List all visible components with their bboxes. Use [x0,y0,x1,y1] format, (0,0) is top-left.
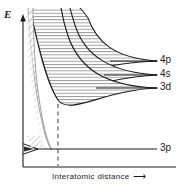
level-label-4p: 4p [160,55,171,65]
x-axis-label: Interatomic distance⟶ [52,172,146,181]
y-axis-label: E [4,9,11,20]
y-axis-arrowhead [20,14,26,22]
level-label-3p: 3p [160,143,171,153]
level-label-3d: 3d [160,82,171,92]
x-axis-label-text: Interatomic distance [52,172,130,181]
x-axis-arrow-glyph: ⟶ [133,171,146,181]
energy-band-diagram [0,0,181,186]
level-label-4s: 4s [160,69,171,79]
